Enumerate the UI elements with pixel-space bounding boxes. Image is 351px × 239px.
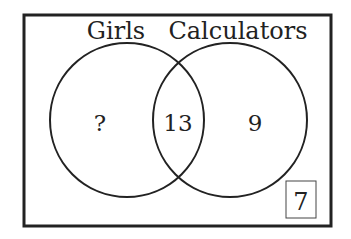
calculators-only-value: 9: [248, 110, 263, 136]
outside-value: 7: [293, 188, 308, 216]
girls-only-value: ?: [94, 110, 106, 136]
calculators-label: Calculators: [168, 17, 307, 45]
girls-label: Girls: [87, 17, 145, 45]
intersection-value: 13: [163, 110, 192, 136]
venn-diagram: Girls Calculators ? 13 9 7: [0, 0, 351, 239]
